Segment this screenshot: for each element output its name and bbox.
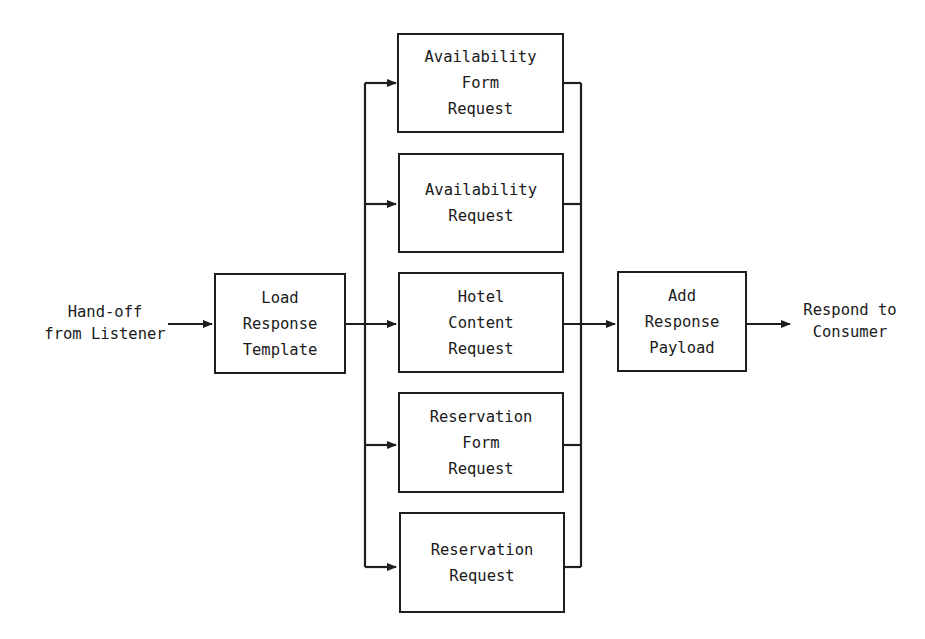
box-text-line: Availability <box>425 177 537 203</box>
reservation-request-box: Reservation Request <box>399 512 565 613</box>
hotel-content-request-box: Hotel Content Request <box>398 272 564 373</box>
box-text-line: Response <box>645 309 720 335</box>
box-text-line: Content <box>448 310 513 336</box>
box-text-line: Form <box>462 70 499 96</box>
output-label-respond-to-consumer: Respond to Consumer <box>793 299 907 343</box>
box-text-line: Reservation <box>430 404 533 430</box>
box-text-line: Request <box>448 336 513 362</box>
box-text-line: Request <box>448 203 513 229</box>
box-text-line: Reservation <box>431 537 534 563</box>
add-response-payload-box: Add Response Payload <box>617 271 747 372</box>
box-text-line: Request <box>448 96 513 122</box>
input-label-hand-off: Hand-off from Listener <box>38 301 172 345</box>
box-text-line: Response <box>243 311 318 337</box>
box-text-line: Request <box>449 563 514 589</box>
box-text-line: Load <box>261 285 298 311</box>
box-text-line: Form <box>462 430 499 456</box>
box-text-line: Payload <box>649 335 714 361</box>
box-text-line: Request <box>448 456 513 482</box>
box-text-line: Availability <box>425 44 537 70</box>
label-line: from Listener <box>38 323 172 345</box>
availability-request-box: Availability Request <box>398 153 564 253</box>
label-line: Respond to <box>793 299 907 321</box>
reservation-form-request-box: Reservation Form Request <box>398 392 564 493</box>
load-response-template-box: Load Response Template <box>214 273 346 374</box>
label-line: Hand-off <box>38 301 172 323</box>
box-text-line: Add <box>668 283 696 309</box>
label-line: Consumer <box>793 321 907 343</box>
box-text-line: Template <box>243 337 318 363</box>
availability-form-request-box: Availability Form Request <box>397 33 564 133</box>
box-text-line: Hotel <box>458 284 505 310</box>
